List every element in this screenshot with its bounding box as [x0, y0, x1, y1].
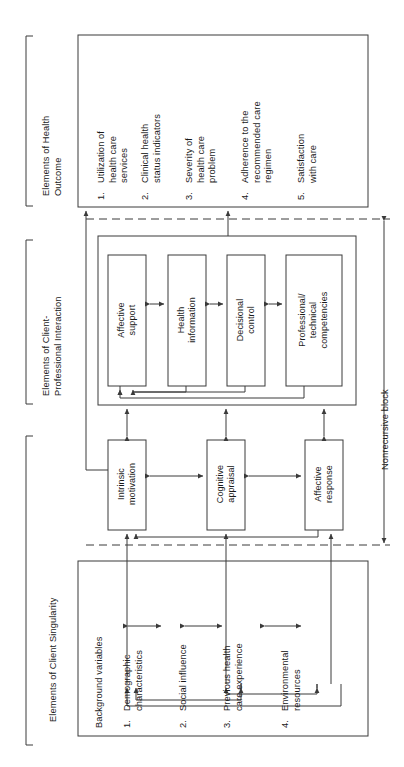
bracket-health-outcome [26, 36, 33, 206]
health-outcome-item-4-text: Adherence to the recommended care regime… [240, 43, 275, 183]
background-item-1-text: Demographic characteristics [122, 581, 145, 711]
background-item-4-number: 4. [280, 708, 292, 728]
bracket-label-client-professional: Elements of Client- Professional Interac… [41, 238, 64, 396]
health-outcome-item-5-text: Satisfaction with care [296, 63, 319, 183]
background-item-2-number: 2. [178, 708, 190, 728]
background-item-3-number: 3. [222, 708, 234, 728]
bracket-label-health-outcome: Elements of Health Outcome [41, 36, 64, 196]
bracket-client-professional [26, 240, 33, 404]
label-cognitive-appraisal: Cognitive appraisal [215, 444, 237, 524]
background-item-1-number: 1. [122, 708, 134, 728]
figure-canvas: Elements of Health Outcome Elements of C… [0, 0, 404, 767]
health-outcome-item-1-number: 1. [96, 180, 108, 200]
health-outcome-item-1-text: Utilization of health care services [96, 63, 131, 183]
nonrecursive-block-label: Nonrecursive block [380, 340, 392, 470]
label-affective-support: Affective support [116, 261, 138, 379]
background-item-2-text: Social influence [178, 581, 190, 711]
loop-affective-to-intrinsic [136, 530, 318, 537]
background-variables-title: Background variables [94, 568, 106, 728]
background-item-3-text: Previous health care experience [222, 581, 245, 711]
health-outcome-item-5-number: 5. [296, 180, 308, 200]
label-health-information: Health information [176, 261, 198, 379]
label-decisional-control: Decisional control [235, 261, 257, 379]
health-outcome-item-2-number: 2. [140, 180, 152, 200]
label-professional-competencies: Professional/ technical competencies [297, 261, 331, 379]
bracket-label-client-singularity: Elements of Client Singularity [48, 442, 60, 722]
bracket-client-singularity [26, 436, 33, 745]
health-outcome-item-3-number: 3. [184, 180, 196, 200]
health-outcome-item-3-text: Severity of health care problem [184, 63, 219, 183]
label-affective-response: Affective response [313, 444, 335, 524]
background-item-4-text: Environmental resources [280, 581, 303, 711]
health-outcome-item-2-text: Clinical health status indicators [140, 53, 163, 183]
health-outcome-item-4-number: 4. [240, 180, 252, 200]
label-intrinsic-motivation: Intrinsic motivation [116, 444, 138, 524]
loop-healthinfo-to-affective [133, 386, 186, 392]
loop-decisional-to-affective [133, 386, 245, 392]
rail-intrinsic-to-outcome [86, 211, 108, 470]
